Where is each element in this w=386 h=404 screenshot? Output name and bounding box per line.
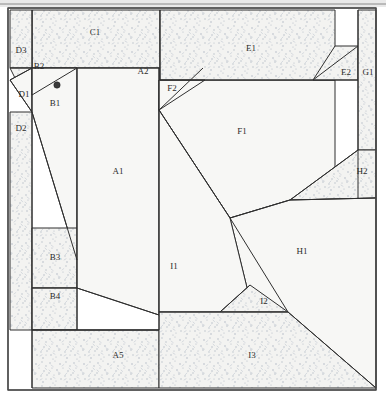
pattern-piece-b4 xyxy=(32,288,77,330)
pattern-diagram: C1D3D2D1B2B1B3B4A1A2A5F2F1E1E2G1H2H1I1I2… xyxy=(0,0,386,404)
pattern-piece-c1 xyxy=(32,10,160,68)
start-dot-icon xyxy=(54,82,60,88)
pattern-canvas: C1D3D2D1B2B1B3B4A1A2A5F2F1E1E2G1H2H1I1I2… xyxy=(0,0,386,404)
pattern-piece-d3 xyxy=(10,10,32,68)
pattern-piece-a5 xyxy=(32,330,159,388)
pattern-piece-e1 xyxy=(160,10,335,80)
pattern-piece-a1 xyxy=(77,68,159,315)
pattern-piece-g1 xyxy=(358,10,376,150)
